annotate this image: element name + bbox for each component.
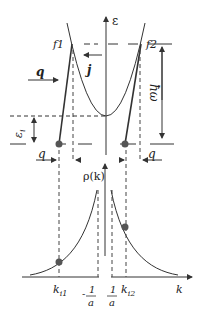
point-f1-label: f1 [52, 38, 64, 51]
tick-neg-inv-a-num: 1 [89, 284, 95, 295]
tick-neg-inv-a-den: a [88, 297, 94, 308]
momentum-distribution-panel: ρ(k) ki1 - 1 a 1 a ki2 k [22, 150, 192, 308]
epsilon-axis-label: ε [112, 14, 118, 28]
current-label: j [85, 63, 92, 77]
rho-axis-label: ρ(k) [83, 170, 105, 183]
tick-pos-inv-a-den: a [109, 297, 115, 308]
transition-line-right [125, 44, 141, 144]
tick-ki2: ki2 [121, 283, 135, 298]
tick-neg-sign: - [82, 288, 85, 299]
initial-state-dot-right [122, 141, 129, 148]
distribution-curve-left [30, 190, 97, 275]
physics-diagram: ε f1 f2 j q εi [0, 0, 202, 321]
tick-ki1: ki1 [53, 283, 67, 298]
distribution-dot-ki2 [122, 224, 129, 231]
distribution-curve-right [111, 190, 178, 275]
photon-energy-label: ħω [147, 84, 161, 102]
k-axis-label: k [176, 283, 183, 296]
tick-pos-inv-a-num: 1 [110, 284, 116, 295]
wavevector-label-bottom-right: q [148, 147, 156, 161]
transition-line-left [59, 44, 72, 144]
epsilon-i-label: εi [12, 129, 27, 138]
energy-dispersion-panel: ε f1 f2 j q εi [10, 14, 174, 161]
wavevector-label-left: q [36, 65, 44, 79]
wavevector-label-bottom-left: q [38, 147, 46, 161]
distribution-dot-ki1 [56, 259, 63, 266]
point-f2-label: f2 [145, 38, 157, 51]
initial-state-dot-left [56, 141, 63, 148]
